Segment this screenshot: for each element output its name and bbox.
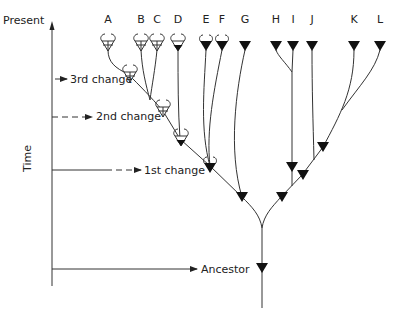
taxon-label-l: L: [377, 14, 383, 25]
taxon-label-g: G: [241, 14, 250, 25]
taxon-c-symbol-icon: [150, 34, 164, 51]
node-g-icon: [236, 192, 248, 202]
taxon-a-symbol-icon: [101, 34, 115, 51]
taxon-l-symbol-icon: [374, 41, 386, 51]
ancestor-node-icon: [256, 263, 268, 273]
taxon-label-f: F: [219, 14, 225, 25]
taxon-h-symbol-icon: [270, 41, 282, 51]
taxon-b-symbol-icon: [134, 34, 148, 51]
taxon-label-k: K: [350, 14, 357, 25]
event-label-1st-change: 1st change: [144, 165, 205, 176]
node-kl-icon: [317, 142, 329, 152]
taxon-label-c: C: [153, 14, 161, 25]
taxon-d-symbol-icon: [171, 34, 185, 51]
taxon-label-b: B: [137, 14, 145, 25]
phylogeny-diagram: [0, 0, 398, 310]
taxon-label-e: E: [203, 14, 210, 25]
tip-symbols: [101, 34, 386, 51]
event-label-3rd-change: 3rd change: [70, 74, 132, 85]
event-label-ancestor: Ancestor: [201, 264, 250, 275]
taxon-label-d: D: [174, 14, 182, 25]
taxon-label-i: I: [291, 14, 294, 25]
present-label: Present: [3, 15, 44, 26]
time-axis-label: Time: [21, 145, 34, 172]
taxon-label-j: J: [310, 14, 313, 25]
taxon-f-symbol-icon: [216, 35, 229, 51]
taxon-i-symbol-icon: [287, 41, 299, 51]
taxon-k-symbol-icon: [348, 41, 360, 51]
node-hi-icon: [286, 162, 298, 172]
taxon-label-a: A: [104, 14, 112, 25]
taxon-e-symbol-icon: [200, 35, 213, 51]
taxon-g-symbol-icon: [239, 41, 251, 51]
event-label-2nd-change: 2nd change: [96, 111, 161, 122]
taxon-label-h: H: [272, 14, 280, 25]
time-axis: [50, 21, 55, 286]
taxon-j-symbol-icon: [306, 41, 318, 51]
